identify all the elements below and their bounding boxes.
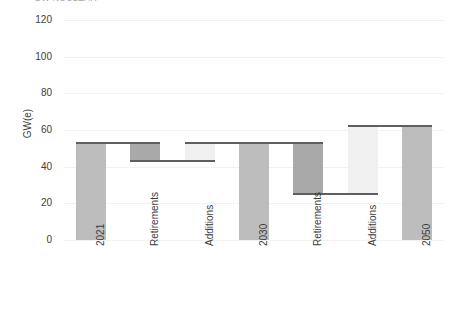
gridline — [64, 240, 444, 241]
x-axis-tick-label-text: Additions — [367, 205, 378, 246]
x-axis-tick-label-text: Retirements — [312, 192, 323, 246]
connector-line — [130, 160, 214, 162]
y-axis-tick-label: 40 — [12, 162, 52, 172]
connector-line — [348, 125, 432, 127]
waterfall-chart: GW NUCLEAR GW(e) 020406080100120 2021Ret… — [0, 0, 450, 322]
y-axis-label: GW(e) — [22, 94, 33, 154]
gridline — [64, 20, 444, 21]
plot-area: 020406080100120 — [64, 20, 444, 240]
bar-decrease-4 — [293, 143, 323, 194]
y-axis-tick-label: 100 — [12, 52, 52, 62]
connector-line — [293, 193, 377, 195]
y-axis-tick-label: 0 — [12, 235, 52, 245]
y-axis-tick-label: 20 — [12, 198, 52, 208]
x-axis-tick-label-text: 2050 — [421, 224, 432, 246]
connector-line — [76, 142, 160, 144]
x-axis-tick-label-text: Additions — [204, 205, 215, 246]
x-axis-tick-label-text: 2021 — [95, 224, 106, 246]
connector-line — [239, 142, 323, 144]
x-axis-tick-label-text: Retirements — [149, 192, 160, 246]
gridline — [64, 93, 444, 94]
x-axis-tick-label-text: 2030 — [258, 224, 269, 246]
gridline — [64, 57, 444, 58]
y-axis-tick-label: 60 — [12, 125, 52, 135]
gridline — [64, 130, 444, 131]
chart-title: GW NUCLEAR — [34, 0, 97, 2]
bar-decrease-1 — [130, 143, 160, 161]
bar-increase-5 — [348, 126, 378, 194]
bar-increase-2 — [185, 143, 215, 161]
y-axis-tick-label: 120 — [12, 15, 52, 25]
y-axis-tick-label: 80 — [12, 88, 52, 98]
